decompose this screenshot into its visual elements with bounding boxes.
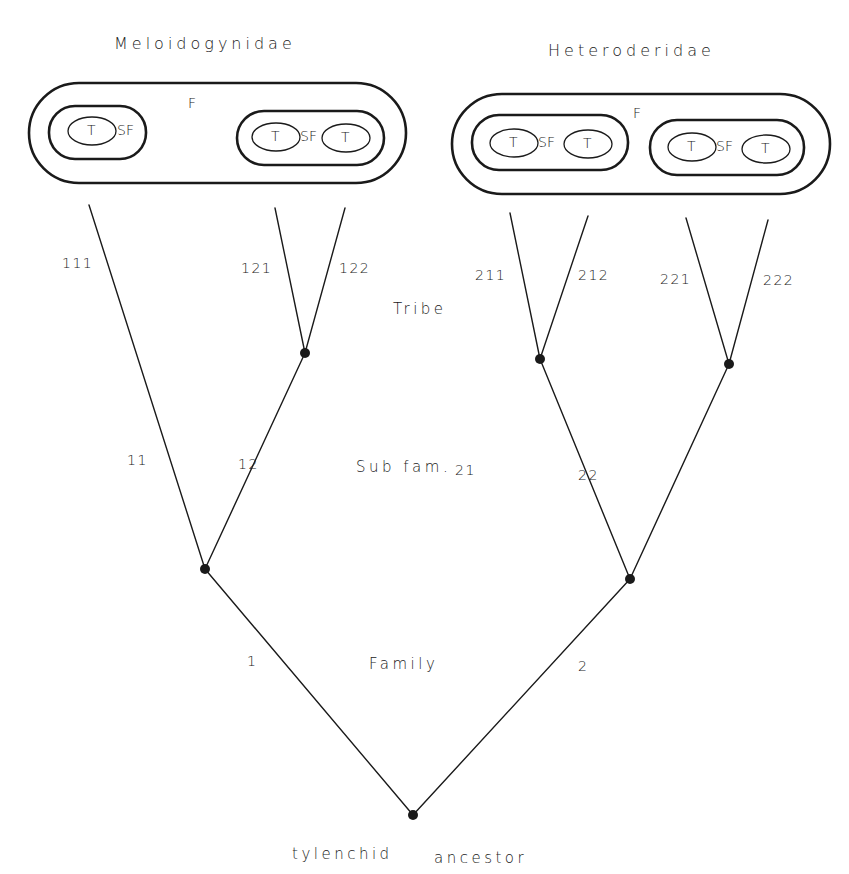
tribe-label: T — [87, 122, 96, 138]
branch-label-212: 212 — [578, 267, 609, 283]
subfamily-label: SF — [117, 122, 134, 138]
root-label-ancestor: ancestor — [434, 849, 527, 867]
rank-label-subfamily: Sub fam. — [356, 458, 451, 476]
node-21 — [535, 354, 545, 364]
branch-22 — [630, 364, 729, 579]
subfamily-label: SF — [538, 134, 555, 150]
branch-121 — [275, 208, 305, 353]
tribe-label: T — [583, 135, 592, 151]
branch-212 — [540, 216, 588, 359]
branch-label-211: 211 — [475, 267, 506, 283]
node-22 — [724, 359, 734, 369]
branch-1 — [205, 569, 413, 815]
subfamily-label: SF — [716, 138, 733, 154]
tribe-label: T — [509, 134, 518, 150]
branch-label-21: 21 — [455, 462, 476, 478]
branch-label-11: 11 — [127, 452, 148, 468]
branch-label-12: 12 — [238, 456, 259, 472]
branch-label-111: 111 — [62, 255, 93, 271]
subfamily-label: SF — [300, 128, 317, 144]
branch-label-2: 2 — [578, 658, 588, 674]
branch-222 — [729, 220, 768, 364]
tribe-label: T — [271, 128, 280, 144]
tribe-label: T — [341, 129, 350, 145]
branch-label-122: 122 — [339, 260, 370, 276]
node-1 — [200, 564, 210, 574]
tribe-label: T — [761, 140, 770, 156]
root-node — [408, 810, 418, 820]
branch-label-121: 121 — [241, 260, 272, 276]
root-label-tylenchid: tylenchid — [292, 845, 393, 863]
branch-label-22: 22 — [578, 467, 599, 483]
branch-label-1: 1 — [247, 653, 257, 669]
node-12 — [300, 348, 310, 358]
tribe-label: T — [687, 138, 696, 154]
family-title-heteroderidae: Heteroderidae — [548, 41, 715, 60]
branch-label-222: 222 — [763, 272, 794, 288]
branch-11 — [89, 205, 205, 569]
branch-211 — [510, 213, 540, 359]
family-title-meloidogynidae: Meloidogynidae — [114, 34, 296, 53]
node-2 — [625, 574, 635, 584]
rank-label-family: Family — [369, 655, 438, 673]
branch-label-221: 221 — [660, 271, 691, 287]
branch-122 — [305, 208, 345, 353]
family-label-f: F — [188, 95, 196, 111]
branch-2 — [413, 579, 630, 815]
family-label-f: F — [633, 105, 641, 121]
branch-221 — [686, 218, 729, 364]
rank-label-tribe: Tribe — [393, 300, 447, 318]
